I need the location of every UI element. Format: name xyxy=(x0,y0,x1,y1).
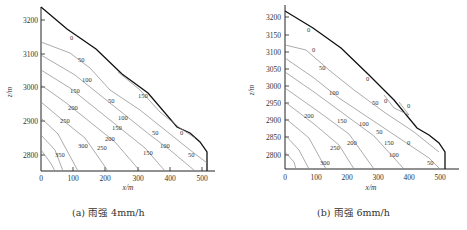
svg-text:0: 0 xyxy=(307,26,310,33)
svg-text:3100: 3100 xyxy=(266,48,281,57)
svg-text:400: 400 xyxy=(403,173,415,182)
svg-text:300: 300 xyxy=(132,174,144,183)
caption-a: (a) 雨强 4mm/h xyxy=(72,205,145,219)
svg-text:50: 50 xyxy=(427,159,434,166)
svg-text:100: 100 xyxy=(82,76,92,83)
contour-plot-b: 3200 3150 3100 3050 3000 2950 2900 2850 … xyxy=(234,0,467,200)
svg-text:50: 50 xyxy=(188,151,195,158)
contour-plot-a: 3200 3100 3000 2900 2800 0 100 200 300 4… xyxy=(0,0,234,200)
svg-text:500: 500 xyxy=(434,173,446,182)
svg-text:100: 100 xyxy=(359,120,369,127)
svg-text:x/m: x/m xyxy=(365,183,377,192)
svg-text:0: 0 xyxy=(180,129,183,136)
svg-text:150: 150 xyxy=(138,92,148,99)
ytick-2900: 2900 xyxy=(23,117,38,126)
svg-text:200: 200 xyxy=(68,104,78,111)
ytick-3100: 3100 xyxy=(23,50,38,59)
svg-text:0: 0 xyxy=(70,34,73,41)
svg-text:2900: 2900 xyxy=(266,116,281,125)
svg-text:400: 400 xyxy=(164,174,176,183)
svg-text:50: 50 xyxy=(152,129,159,136)
svg-text:150: 150 xyxy=(112,124,122,131)
svg-text:100: 100 xyxy=(389,151,399,158)
svg-text:0: 0 xyxy=(312,46,315,53)
svg-text:250: 250 xyxy=(60,117,70,124)
svg-text:2850: 2850 xyxy=(266,133,281,142)
svg-text:2950: 2950 xyxy=(266,99,281,108)
caption-b: (b) 雨强 6mm/h xyxy=(317,205,390,219)
svg-text:50: 50 xyxy=(319,64,326,71)
svg-text:3000: 3000 xyxy=(266,82,281,91)
svg-text:2800: 2800 xyxy=(266,151,281,160)
svg-text:100: 100 xyxy=(67,174,79,183)
svg-text:100: 100 xyxy=(310,173,322,182)
svg-text:0: 0 xyxy=(39,174,43,183)
svg-text:z/m: z/m xyxy=(247,84,256,96)
svg-text:250: 250 xyxy=(97,144,107,151)
ytick-2800: 2800 xyxy=(23,151,38,160)
ytick-3000: 3000 xyxy=(23,83,38,92)
svg-text:50: 50 xyxy=(78,56,85,63)
svg-text:500: 500 xyxy=(196,174,208,183)
svg-text:0: 0 xyxy=(366,75,369,82)
svg-text:3200: 3200 xyxy=(266,13,281,22)
panel-a: 3200 3100 3000 2900 2800 0 100 200 300 4… xyxy=(0,0,234,200)
svg-text:0: 0 xyxy=(407,102,410,109)
svg-text:200: 200 xyxy=(304,112,314,119)
svg-text:200: 200 xyxy=(347,139,357,146)
svg-text:300: 300 xyxy=(78,142,88,149)
svg-text:250: 250 xyxy=(330,144,340,151)
panel-b: 3200 3150 3100 3050 3000 2950 2900 2850 … xyxy=(234,0,467,200)
svg-text:100: 100 xyxy=(160,142,170,149)
svg-text:0: 0 xyxy=(407,139,410,146)
svg-text:150: 150 xyxy=(70,87,80,94)
svg-text:100: 100 xyxy=(118,114,128,121)
svg-text:200: 200 xyxy=(99,174,111,183)
svg-text:0: 0 xyxy=(283,173,287,182)
svg-text:x/m: x/m xyxy=(122,183,134,192)
svg-text:3150: 3150 xyxy=(266,31,281,40)
svg-text:50: 50 xyxy=(376,128,383,135)
ytick-3200: 3200 xyxy=(23,16,38,25)
svg-text:200: 200 xyxy=(341,173,353,182)
svg-text:50: 50 xyxy=(108,97,115,104)
svg-text:200: 200 xyxy=(105,135,115,142)
svg-text:0: 0 xyxy=(384,97,387,104)
svg-text:50: 50 xyxy=(372,99,379,106)
svg-text:300: 300 xyxy=(372,173,384,182)
svg-text:150: 150 xyxy=(384,139,394,146)
svg-text:150: 150 xyxy=(143,149,153,156)
svg-text:z/m: z/m xyxy=(5,86,14,98)
svg-text:150: 150 xyxy=(337,117,347,124)
svg-text:300: 300 xyxy=(320,159,330,166)
svg-text:3050: 3050 xyxy=(266,65,281,74)
svg-text:350: 350 xyxy=(55,151,65,158)
svg-text:100: 100 xyxy=(329,89,339,96)
